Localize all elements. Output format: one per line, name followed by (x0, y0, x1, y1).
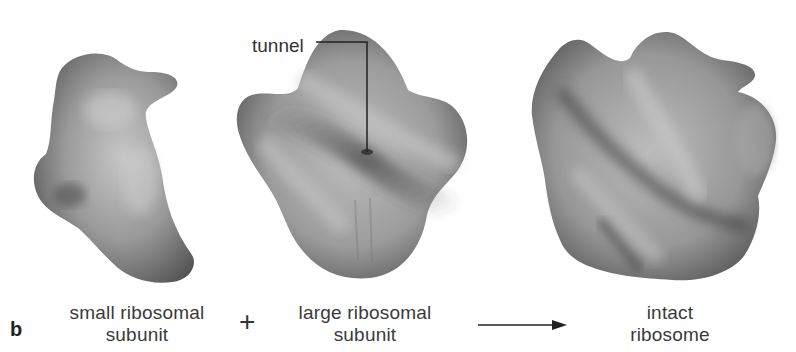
large-subunit-shape (237, 30, 467, 279)
panel-letter: b (10, 318, 22, 341)
large-subunit-caption-line2: subunit (290, 324, 440, 346)
small-subunit-caption-line1: small ribosomal (62, 302, 212, 324)
ribosome-assembly-figure: tunnel small ribosomal subunit + large r… (0, 0, 796, 352)
ribosome-shapes (0, 0, 796, 352)
small-subunit-shape (34, 53, 194, 282)
large-subunit-caption: large ribosomal subunit (290, 302, 440, 346)
plus-sign: + (239, 306, 255, 338)
reaction-arrow (478, 320, 567, 330)
tunnel-label: tunnel (252, 35, 304, 57)
intact-ribosome-caption: intact ribosome (610, 302, 730, 346)
intact-ribosome-caption-line1: intact (610, 302, 730, 324)
small-subunit-caption-line2: subunit (62, 324, 212, 346)
intact-ribosome-caption-line2: ribosome (610, 324, 730, 346)
small-subunit-caption: small ribosomal subunit (62, 302, 212, 346)
intact-ribosome-shape (532, 32, 776, 280)
large-subunit-caption-line1: large ribosomal (290, 302, 440, 324)
